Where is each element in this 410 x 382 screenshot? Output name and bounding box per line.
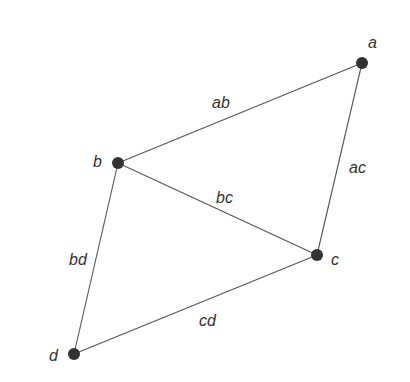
node-label-b: b [93, 153, 102, 170]
labels-group: abacbcbdcdabcd [49, 34, 377, 364]
edge-bc [118, 163, 317, 255]
edge-label-ac: ac [349, 159, 366, 176]
node-label-c: c [331, 251, 339, 268]
edge-label-bc: bc [216, 189, 233, 206]
node-label-d: d [49, 347, 59, 364]
edge-cd [74, 255, 317, 354]
node-c [311, 249, 323, 261]
edge-label-cd: cd [199, 312, 217, 329]
node-label-a: a [368, 34, 377, 51]
node-a [356, 57, 368, 69]
graph-diagram: abacbcbdcdabcd [0, 0, 410, 382]
edge-label-ab: ab [212, 94, 230, 111]
edge-ab [118, 63, 362, 163]
edge-label-bd: bd [69, 251, 88, 268]
node-d [68, 348, 80, 360]
node-b [112, 157, 124, 169]
